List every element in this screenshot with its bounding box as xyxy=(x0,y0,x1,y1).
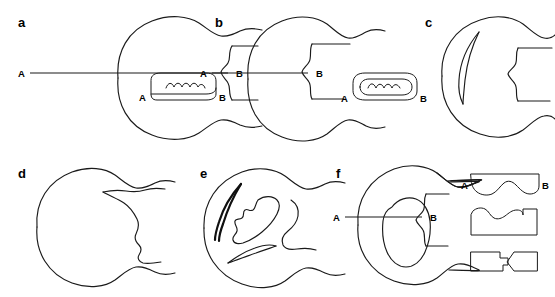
figure-container: a A B A B b xyxy=(0,0,555,297)
panel-a-label: a xyxy=(18,15,26,30)
panel-c-outline-upper xyxy=(442,17,555,76)
panel-f-label: f xyxy=(336,166,341,181)
panel-a-inset-end-label: B xyxy=(219,92,226,103)
panel-f-cross-section-1: A B xyxy=(461,174,549,195)
panel-a: a A B A B xyxy=(18,15,262,139)
panel-c-bracket xyxy=(508,48,518,101)
panel-e-mid-right xyxy=(282,200,316,250)
panel-e: e xyxy=(200,166,345,288)
panel-a-inset-start-label: A xyxy=(139,92,146,103)
panel-b-section-start-label: A xyxy=(200,68,207,79)
panel-b-inset: A B xyxy=(341,73,427,104)
panel-f-cross-section-3 xyxy=(471,252,537,271)
panel-d-outline-lower xyxy=(37,227,175,287)
panel-b-inset-start-label: A xyxy=(341,93,348,104)
panel-b-bracket xyxy=(302,44,312,99)
panel-c: c xyxy=(425,15,555,137)
panel-a-section-start-label: A xyxy=(18,68,25,79)
panel-f-cs3-right xyxy=(507,252,537,271)
panel-b-outline-lower xyxy=(248,79,385,141)
panel-e-label: e xyxy=(200,166,207,181)
panel-f-outline-lower xyxy=(358,225,480,285)
panel-a-inset: A B xyxy=(139,73,226,103)
panel-a-inset-inner-edge xyxy=(151,88,216,94)
panel-f-section-start-label: A xyxy=(333,212,340,223)
panel-f-cs2-outline xyxy=(471,208,537,235)
panel-a-inset-wavy-line xyxy=(166,83,205,88)
figure-canvas: a A B A B b xyxy=(0,0,555,297)
panel-f-central-blob xyxy=(383,198,431,267)
panel-e-jagged-blob xyxy=(233,197,279,244)
panel-b-section-end-label: B xyxy=(316,68,323,79)
panel-c-crescent-outer xyxy=(459,32,479,104)
panel-b-inset-wavy-line xyxy=(368,84,400,88)
panel-b-label: b xyxy=(215,15,223,30)
panel-d-outline-upper xyxy=(37,168,175,227)
panel-d-interior-channel xyxy=(103,192,161,263)
panel-f: f A B A B xyxy=(333,166,549,285)
panel-f-cs1-outline xyxy=(471,174,539,195)
panel-e-outline-lower xyxy=(204,228,345,288)
panel-d-label: d xyxy=(18,166,26,181)
panel-d-mid-right xyxy=(103,188,165,192)
panel-f-section-end-label: B xyxy=(430,212,437,223)
panel-f-outline-upper xyxy=(358,166,482,225)
panel-c-label: c xyxy=(425,15,432,30)
panel-f-cs1-start-label: A xyxy=(461,180,468,191)
panel-b-inset-end-label: B xyxy=(420,93,427,104)
panel-d: d xyxy=(18,166,175,287)
panel-b-inset-inner-outline xyxy=(360,79,412,95)
panel-f-cs1-end-label: B xyxy=(542,180,549,191)
panel-f-outline-upper-tail xyxy=(437,173,482,187)
panel-f-cross-section-2 xyxy=(471,208,537,235)
